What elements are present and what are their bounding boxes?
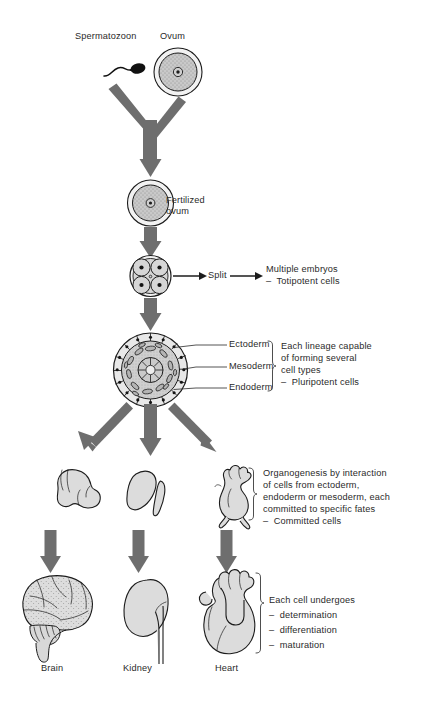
- split-label: Split: [208, 270, 227, 282]
- committed-note-line2: of cells from ectoderm,: [263, 480, 359, 492]
- four-cell-embryo-illustration: [130, 256, 171, 297]
- maturation-note-line2: – determination: [269, 610, 337, 622]
- heart-label: Heart: [215, 663, 238, 675]
- germ-layer-embryo-illustration: [114, 333, 188, 407]
- kidney-illustration: [124, 580, 168, 664]
- spermatozoon-illustration: [104, 62, 146, 76]
- mesoderm-label: Mesoderm: [229, 361, 274, 373]
- heart-illustration: [199, 570, 254, 654]
- multiple-embryos-line1: Multiple embryos: [266, 264, 338, 276]
- cleavage-arrow: [140, 227, 162, 258]
- committed-note-line4: committed to specific fates: [263, 504, 375, 516]
- maturation-note-line3: – differentiation: [269, 625, 337, 637]
- ectoderm-label: Ectoderm: [229, 339, 270, 351]
- pluripotent-note-line4: – Pluripotent cells: [281, 377, 359, 389]
- pluripotent-note-line2: of forming several: [281, 353, 357, 365]
- fertilized-ovum-label-line2: ovum: [166, 206, 189, 218]
- maturation-note-line4: – maturation: [269, 640, 325, 652]
- brain-label: Brain: [41, 663, 63, 675]
- spermatozoon-label: Spermatozoon: [75, 31, 137, 43]
- committed-note-line1: Organogenesis by interaction: [263, 468, 387, 480]
- embryonic-heart-illustration: [215, 466, 251, 529]
- embryonic-brain-illustration: [57, 470, 100, 509]
- fertilization-arrow: [109, 84, 187, 178]
- brain-illustration: [23, 576, 92, 663]
- endoderm-label: Endoderm: [229, 382, 273, 394]
- ovum-illustration: [154, 48, 202, 96]
- pluripotent-note-line3: cell types: [281, 365, 321, 377]
- fertilized-ovum-label-line1: Fertilized: [166, 195, 205, 207]
- multiple-embryos-line2: – Totipotent cells: [266, 276, 340, 288]
- committed-note-line3: endoderm or mesoderm, each: [263, 492, 390, 504]
- pluripotent-note-line1: Each lineage capable: [281, 341, 372, 353]
- organogenesis-arrows: [78, 402, 217, 456]
- embryonic-kidney-illustration: [127, 471, 165, 516]
- maturation-note-line1: Each cell undergoes: [269, 595, 355, 607]
- maturation-brace: [256, 573, 264, 653]
- maturation-arrows: [40, 530, 237, 573]
- kidney-label: Kidney: [123, 663, 152, 675]
- gastrulation-arrow: [140, 298, 162, 331]
- committed-note-line5: – Committed cells: [263, 516, 341, 528]
- developmental-biology-diagram: Spermatozoon Ovum Fertilized ovum Split …: [0, 0, 428, 703]
- ovum-label: Ovum: [160, 31, 185, 43]
